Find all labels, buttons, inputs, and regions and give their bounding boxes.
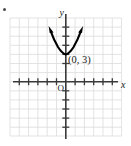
y-axis-label: y (59, 7, 65, 18)
corner-mark-icon (3, 8, 6, 11)
coordinate-plane: y x O (0, 3) (0, 0, 131, 146)
vertex-point-label: (0, 3) (68, 54, 91, 66)
graph-figure: y x O (0, 3) (0, 0, 131, 146)
x-axis-label: x (120, 79, 126, 90)
origin-label: O (58, 83, 65, 93)
